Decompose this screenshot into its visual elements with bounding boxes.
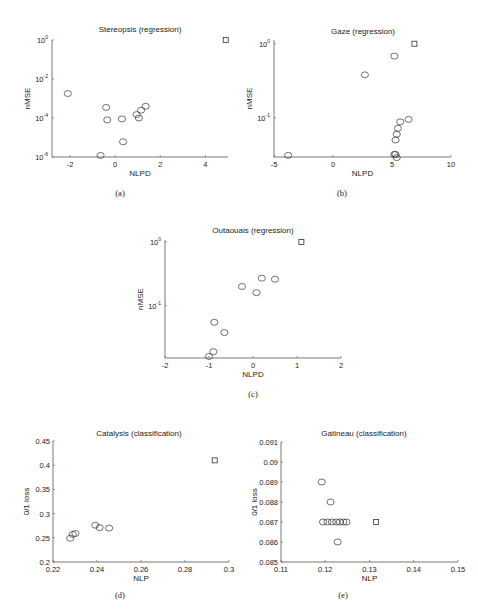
circle-marker: [334, 539, 341, 545]
x-tick-label: 0.28: [178, 565, 193, 574]
subfigure-caption: (c): [248, 389, 258, 399]
circle-marker: [258, 275, 265, 281]
circle-marker: [327, 499, 334, 505]
y-axis-label: 0/1 loss: [22, 488, 31, 516]
circle-marker: [221, 330, 228, 336]
x-tick-label: 0.13: [362, 565, 377, 574]
y-tick-label: 100: [259, 38, 270, 49]
y-axis-label: 0/1 loss: [250, 488, 259, 516]
circle-marker: [142, 103, 149, 109]
chart-title: Gatineau (classification): [321, 429, 407, 438]
circle-marker: [405, 116, 412, 122]
y-tick-label: 10-1: [257, 112, 270, 123]
circle-marker: [133, 112, 140, 118]
circle-marker: [318, 479, 325, 485]
y-tick-label: 0.089: [259, 478, 278, 487]
x-tick-label: 0: [113, 160, 117, 169]
chart-catalysis: Catalysis (classification)0.220.240.260.…: [22, 429, 234, 600]
chart-gatineau: Gatineau (classification)0.110.120.130.1…: [250, 429, 465, 600]
square-marker: [374, 520, 379, 525]
y-tick-label: 0.2: [40, 558, 50, 567]
x-axis-label: NLP: [362, 574, 378, 583]
y-tick-label: 100: [150, 236, 161, 247]
square-marker: [223, 38, 228, 43]
circle-marker: [394, 125, 401, 131]
y-tick-label: 0.25: [35, 534, 50, 543]
circle-marker: [210, 349, 217, 355]
circle-marker: [392, 137, 399, 143]
circle-marker: [97, 152, 104, 158]
circle-marker: [135, 115, 142, 121]
chart-title: Gaze (regression): [331, 27, 395, 36]
circle-marker: [324, 519, 331, 525]
chart-title: Catalysis (classification): [96, 429, 182, 438]
circle-marker: [285, 152, 292, 158]
y-tick-label: 0.45: [35, 437, 50, 446]
square-marker: [299, 239, 304, 244]
y-tick-label: 0.085: [259, 558, 278, 567]
x-axis-label: NLPD: [129, 169, 151, 178]
square-marker: [212, 458, 217, 463]
circle-marker: [328, 519, 335, 525]
circle-marker: [211, 319, 218, 325]
x-tick-label: 2: [158, 160, 162, 169]
x-tick-label: -5: [271, 160, 278, 169]
y-tick-label: 0.09: [263, 458, 278, 467]
x-tick-label: 10: [447, 160, 455, 169]
circle-marker: [103, 104, 110, 110]
y-tick-label: 0.35: [35, 485, 50, 494]
circle-marker: [238, 283, 245, 289]
chart-stereopsis: Stereopsis (regression)-202410010-210-41…: [23, 25, 228, 198]
y-tick-label: 10-1: [148, 300, 161, 311]
x-tick-label: -2: [67, 160, 74, 169]
x-axis-label: NLPD: [352, 169, 374, 178]
y-tick-label: 10-6: [35, 151, 48, 162]
subfigure-caption: (a): [115, 188, 125, 198]
x-tick-label: 1: [295, 361, 299, 370]
circle-marker: [67, 535, 74, 541]
circle-marker: [253, 290, 260, 296]
x-tick-label: 0: [251, 361, 255, 370]
x-tick-label: 0.15: [451, 565, 466, 574]
x-tick-label: 0.26: [134, 565, 149, 574]
circle-marker: [64, 91, 71, 97]
x-tick-label: 0.14: [406, 565, 421, 574]
x-tick-label: 0.3: [224, 565, 234, 574]
chart-outaouais: Outaouais (regression)-2-101210010-1NLPD…: [136, 226, 343, 399]
square-marker: [412, 41, 417, 46]
circle-marker: [391, 53, 398, 59]
y-tick-label: 0.088: [259, 498, 278, 507]
circle-marker: [118, 116, 125, 122]
chart-title: Stereopsis (regression): [99, 25, 182, 34]
circle-marker: [138, 107, 145, 113]
subfigure-caption: (d): [115, 590, 125, 600]
x-tick-label: -2: [162, 361, 169, 370]
y-tick-label: 0.4: [40, 461, 50, 470]
x-tick-label: 2: [339, 361, 343, 370]
circle-marker: [397, 119, 404, 125]
x-tick-label: -1: [206, 361, 213, 370]
subfigure-caption: (b): [337, 188, 347, 198]
chart-gaze: Gaze (regression)-5051010010-1NLPDnMSE(b…: [245, 27, 455, 198]
circle-marker: [271, 276, 278, 282]
subfigure-caption: (e): [338, 590, 348, 600]
x-tick-label: 0.24: [90, 565, 105, 574]
x-tick-label: 0: [331, 160, 335, 169]
circle-marker: [119, 139, 126, 145]
figure-canvas: Stereopsis (regression)-202410010-210-41…: [0, 0, 478, 609]
circle-marker: [393, 131, 400, 137]
y-tick-label: 0.086: [259, 538, 278, 547]
y-tick-label: 10-2: [35, 73, 48, 84]
y-axis-label: nMSE: [245, 88, 254, 110]
x-axis-label: NLPD: [242, 370, 264, 379]
x-tick-label: 0.12: [318, 565, 333, 574]
circle-marker: [104, 117, 111, 123]
circle-marker: [361, 72, 368, 78]
circle-marker: [72, 530, 79, 536]
x-tick-label: 5: [390, 160, 394, 169]
y-axis-label: nMSE: [23, 88, 32, 110]
x-axis-label: NLP: [133, 574, 149, 583]
circle-marker: [319, 519, 326, 525]
y-tick-label: 0.087: [259, 518, 278, 527]
y-tick-label: 0.091: [259, 438, 278, 447]
